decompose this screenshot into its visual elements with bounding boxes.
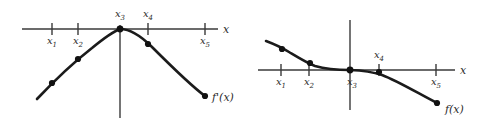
two-panel-calculus-figure: x1 x2 x3 x4 x5 x f'(x) (0, 0, 483, 124)
tick-label-x3-sub: 3 (121, 14, 126, 22)
tick-label-x3: x3 (347, 76, 358, 90)
function-label: f(x) (444, 103, 464, 116)
tick-label-x4: x4 (374, 49, 384, 63)
point-x2 (307, 60, 313, 66)
tick-label-x5-sub: 5 (206, 41, 211, 49)
tick-label-x5: x5 (431, 76, 442, 90)
tick-label-x1-sub: 1 (53, 41, 57, 49)
point-x3 (347, 67, 354, 74)
point-x5 (434, 100, 440, 106)
derivative-plot-panel: x1 x2 x3 x4 x5 x f'(x) (0, 0, 241, 124)
tick-label-x2-sub: 2 (78, 41, 84, 49)
point-x1 (49, 80, 55, 86)
tick-label-x5: x5 (200, 35, 211, 49)
point-x1 (279, 46, 285, 52)
tick-label-x2: x2 (73, 35, 84, 49)
tick-label-x2-sub: 2 (309, 82, 315, 90)
tick-label-x5-sub: 5 (437, 82, 442, 90)
tick-label-x1-sub: 1 (282, 82, 286, 90)
tick-label-x1: x1 (47, 35, 57, 49)
point-x3 (117, 26, 124, 33)
x-axis-label: x (460, 64, 467, 77)
tick-label-x2: x2 (304, 76, 315, 90)
function-plot-panel: x1 x2 x3 x4 x5 x f(x) (241, 0, 483, 124)
point-x5 (202, 93, 208, 99)
tick-label-x1: x1 (276, 76, 286, 90)
tick-label-x4-sub: 4 (379, 55, 384, 63)
point-x4 (376, 69, 382, 75)
point-x4 (145, 41, 151, 47)
tick-label-x4-sub: 4 (148, 14, 153, 22)
tick-label-x3: x3 (115, 8, 126, 22)
x-axis-label: x (223, 23, 230, 36)
tick-label-x4: x4 (143, 8, 153, 22)
derivative-function-label: f'(x) (211, 91, 234, 104)
tick-label-x3-sub: 3 (353, 82, 358, 90)
derivative-curve (37, 29, 205, 99)
point-x2 (75, 56, 81, 62)
